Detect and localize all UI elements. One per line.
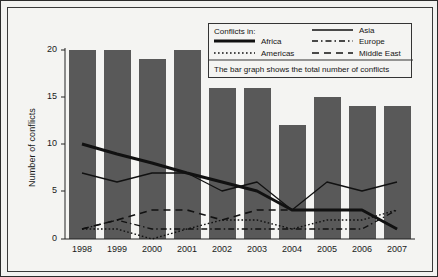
legend-label-asia: Asia [359,26,375,35]
bar-2007 [384,106,411,239]
legend-label-europe: Europe [359,37,385,46]
x-tick-label-2006: 2006 [345,244,379,254]
y-axis-title: Number of conflicts [27,108,37,187]
y-tick-label-5: 5 [37,185,57,195]
x-tick-label-2005: 2005 [310,244,344,254]
bar-1999 [104,50,131,239]
bar-2003 [244,88,271,239]
bar-2005 [314,97,341,239]
bar-2004 [279,125,306,239]
x-tick-label-2002: 2002 [205,244,239,254]
y-tick-label-10: 10 [37,138,57,148]
x-tick-label-2003: 2003 [240,244,274,254]
x-tick-label-2007: 2007 [380,244,414,254]
chart-figure: Number of conflicts 20 15 10 5 0 1998 19… [0,0,438,277]
chart-legend: Conflicts in: Africa Americas Asia Europ… [208,23,412,78]
y-tick-label-15: 15 [37,91,57,101]
x-tick-label-1999: 1999 [100,244,134,254]
y-tick-label-20: 20 [37,44,57,54]
legend-label-middle-east: Middle East [359,49,401,58]
bar-2006 [349,106,376,239]
legend-note: The bar graph shows the total number of … [214,65,389,74]
bar-2002 [209,88,236,239]
x-tick-label-2001: 2001 [170,244,204,254]
legend-label-africa: Africa [261,37,281,46]
x-tick-label-2000: 2000 [135,244,169,254]
x-tick-label-2004: 2004 [275,244,309,254]
y-tick-label-0: 0 [37,233,57,243]
legend-label-americas: Americas [261,49,294,58]
x-tick-label-1998: 1998 [65,244,99,254]
legend-heading: Conflicts in: [214,27,255,36]
